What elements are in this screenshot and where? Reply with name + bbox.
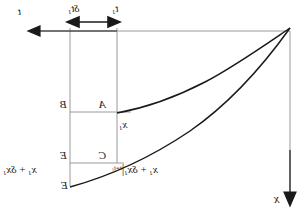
x-axis-label: x	[274, 193, 279, 205]
point-label-C: C	[99, 150, 106, 161]
curve-label-x1: x1	[119, 119, 127, 130]
mathematical-diagram-figure: t δt1 t1 B A x1 E C E x1 + δx1 x1 + δx1|…	[0, 0, 307, 219]
t-axis-label: t	[18, 6, 21, 17]
t1-tick-label: t1	[112, 3, 118, 14]
left-axis-value-label: x1 + δx1	[3, 164, 36, 175]
delta-t1-measure-arrow	[67, 17, 120, 27]
point-label-E: E	[61, 180, 68, 191]
t-axis-arrow	[28, 26, 117, 36]
point-label-D: E	[60, 150, 67, 161]
curve-x1	[117, 28, 290, 113]
curve-label-x1-plus-delta-x1: x1 + δx1|t=t1	[112, 163, 158, 175]
point-label-B: B	[60, 99, 67, 110]
point-label-A: A	[99, 99, 106, 110]
diagram-canvas	[0, 0, 307, 219]
delta-t1-label: δt1	[68, 3, 80, 14]
x-axis-arrow	[284, 150, 296, 206]
